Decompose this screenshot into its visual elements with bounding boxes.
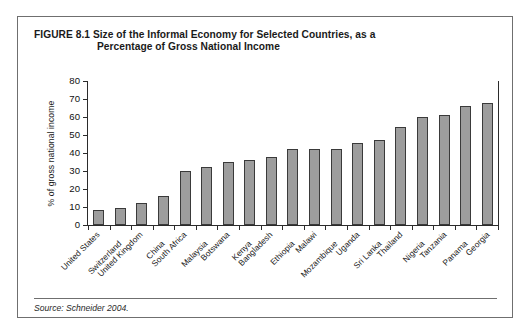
y-axis-tick-label: 30: [69, 165, 80, 176]
bar: [244, 160, 255, 225]
y-axis-title: % of gross national income: [46, 0, 60, 81]
bar: [180, 171, 191, 225]
bar: [460, 106, 471, 225]
bar: [439, 115, 450, 225]
bar: [395, 127, 406, 225]
bar: [266, 157, 277, 225]
bar-slot: [261, 81, 283, 225]
bar-slot: [412, 81, 434, 225]
y-axis-tick-label: 70: [69, 93, 80, 104]
bar-slot: [282, 81, 304, 225]
bar: [287, 149, 298, 225]
x-axis-labels: United StatesSwitzerlandUnited KingdomCh…: [87, 226, 499, 296]
bar-slot: [88, 81, 110, 225]
bar-series: [88, 81, 498, 225]
figure-container: FIGURE 8.1 Size of the Informal Economy …: [17, 16, 513, 318]
bar-slot: [131, 81, 153, 225]
bar-slot: [369, 81, 391, 225]
bar-slot: [455, 81, 477, 225]
bar: [309, 149, 320, 225]
figure-title: FIGURE 8.1 Size of the Informal Economy …: [34, 28, 489, 41]
bar-slot: [476, 81, 498, 225]
y-axis-tick-label: 50: [69, 129, 80, 140]
bar-slot: [217, 81, 239, 225]
bar-slot: [390, 81, 412, 225]
plot-area: 01020304050607080: [87, 81, 499, 226]
source-divider: [34, 298, 497, 299]
bar: [201, 167, 212, 225]
figure-title-line-2: Percentage of Gross National Income: [97, 41, 280, 52]
bar-slot: [239, 81, 261, 225]
bar: [417, 117, 428, 225]
bar-slot: [174, 81, 196, 225]
bar-slot: [196, 81, 218, 225]
bar-slot: [110, 81, 132, 225]
y-axis-title-text: % of gross national income: [46, 81, 56, 226]
bar: [93, 210, 104, 225]
bar-slot: [325, 81, 347, 225]
y-axis-tick-label: 0: [75, 219, 80, 230]
bar: [158, 196, 169, 225]
figure-number: FIGURE 8.1: [34, 29, 90, 40]
bar: [223, 162, 234, 225]
figure-title-line-1: Size of the Informal Economy for Selecte…: [93, 29, 376, 40]
bar: [136, 203, 147, 226]
y-axis-tick-label: 80: [69, 75, 80, 86]
bar-slot: [304, 81, 326, 225]
y-axis-tick-label: 10: [69, 201, 80, 212]
bar-slot: [347, 81, 369, 225]
bar: [482, 103, 493, 225]
bar-slot: [433, 81, 455, 225]
bar: [352, 143, 363, 225]
y-axis-tick-label: 60: [69, 111, 80, 122]
x-axis-label: Switzerland: [0, 238, 123, 335]
bar: [374, 140, 385, 226]
y-axis-tick-label: 20: [69, 183, 80, 194]
bar-slot: [153, 81, 175, 225]
source-note: Source: Schneider 2004.: [34, 303, 129, 313]
bar: [331, 149, 342, 226]
bar: [115, 208, 126, 225]
y-axis-tick-label: 40: [69, 147, 80, 158]
